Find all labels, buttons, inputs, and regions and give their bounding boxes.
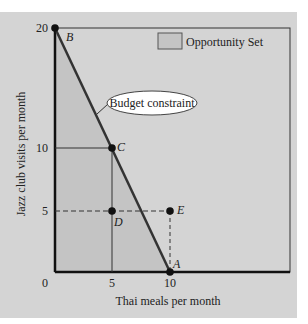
- callout-label: Budget constraint: [110, 96, 196, 110]
- point-c: [108, 144, 116, 152]
- x-tick-5: 5: [109, 276, 115, 290]
- point-e: [166, 207, 174, 215]
- x-tick-0: 0: [42, 276, 48, 290]
- point-a-label: A: [172, 257, 181, 271]
- opportunity-set-chart: B C D E A Opportunity Set Budget constra…: [0, 0, 308, 324]
- point-d: [108, 207, 116, 215]
- legend-label: Opportunity Set: [186, 35, 264, 49]
- y-tick-5: 5: [42, 204, 48, 218]
- x-axis-label: Thai meals per month: [116, 294, 221, 308]
- y-axis-label: Jazz club visits per month: [14, 92, 28, 217]
- point-c-label: C: [117, 140, 126, 154]
- callout-pointer: [97, 104, 108, 114]
- point-d-label: D: [113, 215, 123, 229]
- y-tick-10: 10: [36, 141, 48, 155]
- legend-swatch: [158, 33, 182, 49]
- point-b-label: B: [66, 30, 74, 44]
- x-tick-10: 10: [164, 276, 176, 290]
- point-e-label: E: [176, 203, 185, 217]
- y-tick-20: 20: [36, 21, 48, 35]
- point-b: [51, 24, 59, 32]
